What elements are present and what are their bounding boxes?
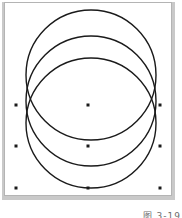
figure-caption: 图 3-19: [143, 211, 181, 218]
handle-middle-center[interactable]: [87, 145, 90, 148]
circle-middle[interactable]: [26, 36, 156, 166]
handle-bottom-left[interactable]: [15, 187, 18, 190]
circle-bottom[interactable]: [26, 58, 156, 188]
handle-middle-right[interactable]: [159, 145, 162, 148]
circle-top[interactable]: [26, 10, 156, 140]
figure-screenshot: 图 3-19: [0, 0, 182, 218]
handle-bottom-center[interactable]: [87, 187, 90, 190]
handle-top-center[interactable]: [87, 104, 90, 107]
handle-middle-left[interactable]: [15, 145, 18, 148]
drawing-canvas[interactable]: [0, 0, 182, 218]
handle-bottom-right[interactable]: [159, 187, 162, 190]
handle-top-left[interactable]: [15, 104, 18, 107]
handle-top-right[interactable]: [159, 104, 162, 107]
